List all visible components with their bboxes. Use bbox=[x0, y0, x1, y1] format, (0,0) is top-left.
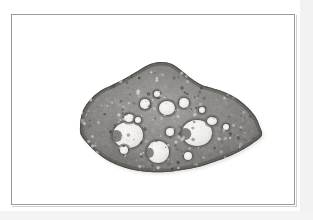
micrograph-stage bbox=[24, 30, 306, 219]
image-frame bbox=[11, 14, 295, 205]
histology-plate: Transverse histological section of an ov… bbox=[0, 0, 313, 220]
micrograph-image bbox=[24, 30, 306, 219]
